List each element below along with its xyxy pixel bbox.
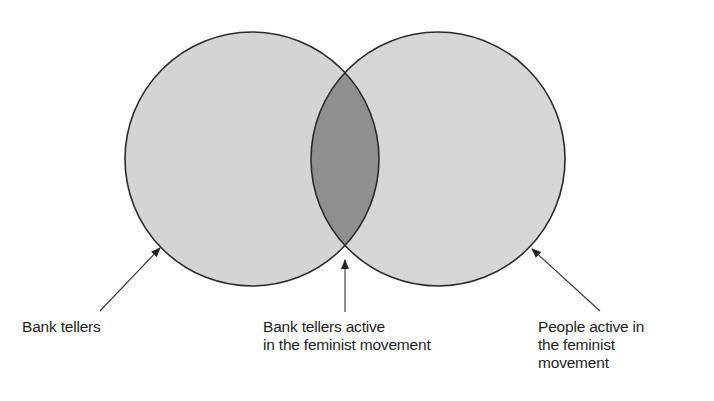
label-line: Bank tellers active: [263, 318, 431, 336]
label-intersection: Bank tellers active in the feminist move…: [263, 318, 431, 354]
label-bank-tellers: Bank tellers: [22, 318, 101, 336]
label-line: in the feminist movement: [263, 336, 431, 354]
label-line: the feminist: [538, 336, 644, 354]
label-line: People active in: [538, 318, 644, 336]
label-feminist-movement: People active in the feminist movement: [538, 318, 644, 372]
arrow-bank-tellers: [100, 248, 160, 311]
label-line: Bank tellers: [22, 318, 101, 336]
label-line: movement: [538, 354, 644, 372]
arrow-feminist-movement: [532, 249, 600, 311]
